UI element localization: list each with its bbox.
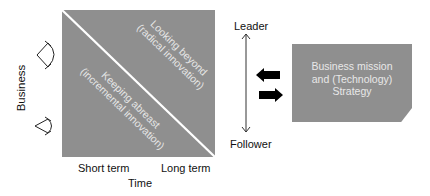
business-mission-box: Business mission and (Technology) Strate… (292, 44, 412, 122)
box-line3: Strategy (292, 85, 412, 98)
arrow-right-icon (257, 88, 283, 102)
y-axis-label: Business (15, 63, 27, 113)
scale-bottom-label: Follower (230, 138, 272, 150)
innovation-matrix: Looking beyond (radical innovation) Keep… (62, 10, 215, 157)
box-line2: and (Technology) (292, 73, 412, 86)
business-mission-text: Business mission and (Technology) Strate… (292, 60, 412, 98)
double-arrow-vertical-icon (240, 32, 252, 134)
scale-top-label: Leader (234, 20, 268, 32)
wide-view-eye-icon (34, 40, 58, 70)
x-tick-long-term: Long term (161, 162, 211, 174)
arrow-left-icon (256, 68, 282, 82)
narrow-view-eye-icon (32, 114, 56, 138)
x-tick-short-term: Short term (78, 162, 129, 174)
x-axis-label: Time (128, 177, 152, 189)
box-line1: Business mission (292, 60, 412, 73)
